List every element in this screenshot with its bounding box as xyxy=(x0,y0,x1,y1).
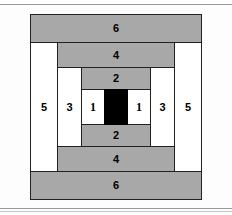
page-rule-top xyxy=(0,4,232,5)
band-2-bottom-label: 2 xyxy=(113,130,119,141)
diagram-page: 6 6 5 5 4 4 3 3 2 2 xyxy=(0,0,232,215)
band-6-top-label: 6 xyxy=(113,23,119,34)
band-5-left-label: 5 xyxy=(41,102,47,113)
page-rule-bottom xyxy=(0,208,232,209)
band-1-right-label: 1 xyxy=(136,101,142,113)
log-cabin-block-figure: 6 6 5 5 4 4 3 3 2 2 xyxy=(30,14,202,200)
band-3-left-label: 3 xyxy=(66,102,72,113)
band-5-left: 5 xyxy=(30,42,58,172)
center-square xyxy=(104,89,128,125)
band-2-top: 2 xyxy=(81,67,151,90)
band-5-right-label: 5 xyxy=(185,102,191,113)
band-1-right: 1 xyxy=(127,89,151,125)
band-1-left-label: 1 xyxy=(90,101,96,113)
page-rule-bottom-secondary xyxy=(0,211,232,212)
band-1-left: 1 xyxy=(81,89,105,125)
band-3-right-label: 3 xyxy=(159,102,165,113)
band-6-bottom-label: 6 xyxy=(113,180,119,191)
band-2-bottom: 2 xyxy=(81,124,151,147)
band-3-left: 3 xyxy=(57,67,82,147)
band-6-bottom: 6 xyxy=(30,171,202,200)
band-5-right: 5 xyxy=(174,42,202,172)
band-4-bottom-label: 4 xyxy=(113,154,119,165)
band-4-top-label: 4 xyxy=(113,50,119,61)
band-4-bottom: 4 xyxy=(57,146,175,172)
band-3-right: 3 xyxy=(150,67,175,147)
band-2-top-label: 2 xyxy=(113,73,119,84)
band-4-top: 4 xyxy=(57,42,175,68)
band-6-top: 6 xyxy=(30,14,202,43)
